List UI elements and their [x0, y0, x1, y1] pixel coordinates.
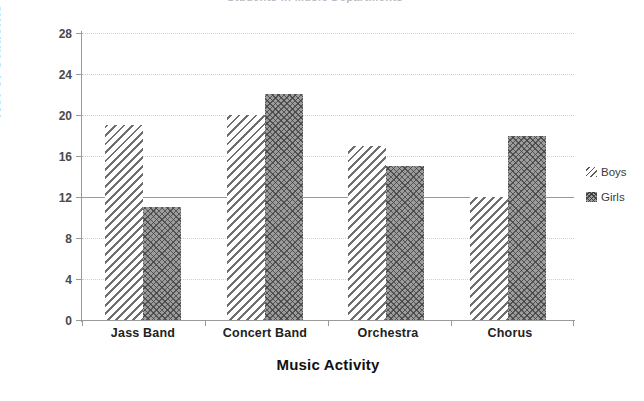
bar-chorus-boys: [470, 197, 508, 320]
bar-orchestra-boys: [348, 146, 386, 320]
x-axis-line: [81, 320, 575, 321]
x-axis-title: Music Activity: [82, 356, 574, 373]
bar-orchestra-girls: [386, 166, 424, 320]
y-tick-label-16: 16: [38, 150, 72, 164]
y-tick-label-12: 12: [38, 191, 72, 205]
y-axis-title: No. of Students: [0, 0, 3, 118]
y-tick-label-24: 24: [38, 68, 72, 82]
chart-title: Students in Music Departments: [150, 0, 480, 3]
legend-item-boys: Boys: [586, 166, 644, 178]
y-tick-label-4: 4: [38, 273, 72, 287]
bar-chart: Students in Music Departments No. of Stu…: [0, 0, 644, 401]
chart-legend: Boys Girls: [586, 166, 644, 216]
y-axis-line: [81, 31, 82, 322]
legend-label-girls: Girls: [601, 191, 625, 203]
bar-jass-band-boys: [105, 125, 143, 320]
diagonal-hatch-swatch-icon: [586, 167, 597, 177]
gridline-28: [82, 33, 574, 34]
bar-chorus-girls: [508, 136, 546, 320]
legend-item-girls: Girls: [586, 191, 644, 203]
gridline-20: [82, 115, 574, 116]
x-category-label-concert-band: Concert Band: [200, 326, 330, 340]
bar-concert-band-girls: [265, 94, 303, 320]
gridline-24: [82, 74, 574, 75]
legend-label-boys: Boys: [601, 166, 627, 178]
y-tick-label-28: 28: [38, 27, 72, 41]
plot-area: [82, 33, 574, 320]
y-tick-label-8: 8: [38, 232, 72, 246]
y-tick-label-20: 20: [38, 109, 72, 123]
x-category-label-jass-band: Jass Band: [78, 326, 208, 340]
bar-concert-band-boys: [227, 115, 265, 320]
x-category-label-chorus: Chorus: [445, 326, 575, 340]
x-category-label-orchestra: Orchestra: [323, 326, 453, 340]
y-tick-label-0: 0: [38, 314, 72, 328]
cross-hatch-swatch-icon: [586, 192, 597, 202]
bar-jass-band-girls: [143, 207, 181, 320]
gridline-16: [82, 156, 574, 157]
